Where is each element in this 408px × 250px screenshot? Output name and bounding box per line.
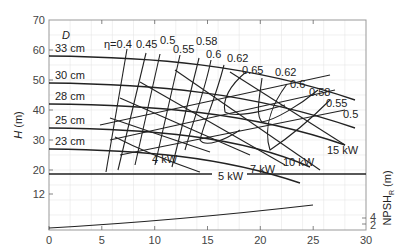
svg-text:0.5: 0.5: [343, 108, 358, 120]
svg-text:30: 30: [33, 134, 45, 146]
svg-text:0.62: 0.62: [275, 66, 296, 78]
pump-performance-chart: 0 5 10 15 20 25 30 70 60 50 40 30 20 12 …: [0, 0, 408, 250]
svg-text:12: 12: [33, 188, 45, 200]
svg-text:70: 70: [33, 14, 45, 26]
svg-text:15 kW: 15 kW: [327, 144, 359, 156]
power-labels: 4 kW 5 kW 7 kW 10 kW 15 kW: [152, 144, 359, 182]
svg-text:28 cm: 28 cm: [55, 90, 85, 102]
npsh-curve: [49, 205, 313, 228]
svg-text:7 kW: 7 kW: [250, 163, 276, 175]
svg-text:5: 5: [99, 234, 105, 246]
head-curve-25cm: [49, 128, 310, 167]
svg-text:5 kW: 5 kW: [218, 170, 244, 182]
svg-text:40: 40: [33, 104, 45, 116]
svg-text:30: 30: [360, 234, 372, 246]
svg-text:0.62: 0.62: [227, 52, 248, 64]
svg-text:0: 0: [46, 234, 52, 246]
svg-text:60: 60: [33, 44, 45, 56]
svg-text:0.45: 0.45: [136, 38, 157, 50]
svg-text:0.6: 0.6: [290, 78, 305, 90]
right-tick-labels: 4 2: [370, 211, 376, 231]
y-tick-labels: 70 60 50 40 30 20 12: [33, 14, 45, 200]
right-axis-label: NPSHR (m): [381, 170, 395, 225]
svg-text:20: 20: [33, 164, 45, 176]
svg-text:2: 2: [370, 219, 376, 231]
svg-text:25 cm: 25 cm: [55, 114, 85, 126]
svg-text:0.55: 0.55: [173, 43, 194, 55]
svg-text:10 kW: 10 kW: [283, 156, 315, 168]
x-tick-labels: 0 5 10 15 20 25 30: [46, 234, 372, 246]
svg-text:H (m): H (m): [12, 111, 24, 139]
svg-text:0.58: 0.58: [196, 35, 217, 47]
svg-text:15: 15: [201, 234, 213, 246]
svg-text:D: D: [62, 29, 70, 41]
svg-text:30 cm: 30 cm: [55, 69, 85, 81]
svg-text:20: 20: [254, 234, 266, 246]
svg-text:25: 25: [307, 234, 319, 246]
svg-text:0.65: 0.65: [242, 64, 263, 76]
svg-text:4 kW: 4 kW: [152, 153, 178, 165]
svg-text:33 cm: 33 cm: [55, 42, 85, 54]
svg-text:50: 50: [33, 74, 45, 86]
svg-text:10: 10: [149, 234, 161, 246]
svg-text:23 cm: 23 cm: [55, 135, 85, 147]
svg-text:η=0.4: η=0.4: [104, 38, 132, 50]
y-axis-label: H (m): [12, 111, 24, 139]
svg-text:NPSHR (m): NPSHR (m): [381, 170, 395, 225]
svg-text:0.6: 0.6: [206, 48, 221, 60]
